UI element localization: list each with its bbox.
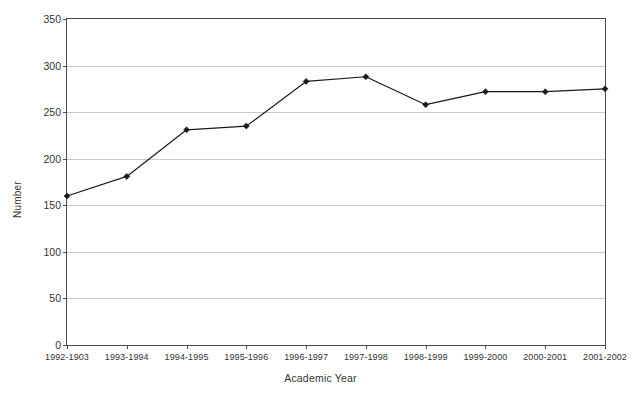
data-point-marker: [423, 102, 429, 108]
x-axis-tick-mark: [306, 345, 307, 349]
x-axis-tick-mark: [426, 345, 427, 349]
x-axis-tick-label: 2000-2001: [523, 352, 567, 362]
x-axis-tick-label: 1998-1999: [404, 352, 448, 362]
x-axis-tick-label: 1992-1903: [45, 352, 89, 362]
x-axis-tick-mark: [545, 345, 546, 349]
plot-area: 050100150200250300350 1992-19031993-1994…: [66, 18, 606, 346]
series-line: [67, 77, 605, 196]
y-axis-tick-label: 250: [17, 106, 61, 118]
x-axis-tick-mark: [67, 345, 68, 349]
x-axis-tick-mark: [605, 345, 606, 349]
x-axis-title: Academic Year: [0, 372, 641, 384]
y-axis-tick-label: 100: [17, 246, 61, 258]
data-point-marker: [542, 89, 548, 95]
x-axis-tick-label: 1993-1994: [105, 352, 149, 362]
y-axis-tick-label: 50: [17, 292, 61, 304]
y-axis-tick-label: 350: [17, 13, 61, 25]
x-axis-tick-mark: [127, 345, 128, 349]
data-series-group: [67, 19, 605, 345]
x-axis-tick-mark: [246, 345, 247, 349]
x-axis-tick-label: 1997-1998: [344, 352, 388, 362]
y-axis-tick-label: 300: [17, 60, 61, 72]
y-axis-tick-label: 200: [17, 153, 61, 165]
x-axis-tick-label: 1995-1996: [224, 352, 268, 362]
x-axis-tick-mark: [366, 345, 367, 349]
data-point-marker: [482, 89, 488, 95]
x-axis-tick-label: 2001-2002: [583, 352, 627, 362]
y-axis-tick-label: 150: [17, 199, 61, 211]
x-axis-tick-mark: [485, 345, 486, 349]
x-axis-tick-label: 1999-2000: [463, 352, 507, 362]
y-axis-tick-label: 0: [17, 339, 61, 351]
x-axis-tick-label: 1994-1995: [165, 352, 209, 362]
x-axis-tick-label: 1996-1997: [284, 352, 328, 362]
data-point-marker: [363, 74, 369, 80]
line-chart: Number 050100150200250300350 1992-190319…: [0, 0, 641, 398]
data-point-marker: [602, 86, 608, 92]
data-point-marker: [64, 193, 70, 199]
x-axis-tick-mark: [187, 345, 188, 349]
